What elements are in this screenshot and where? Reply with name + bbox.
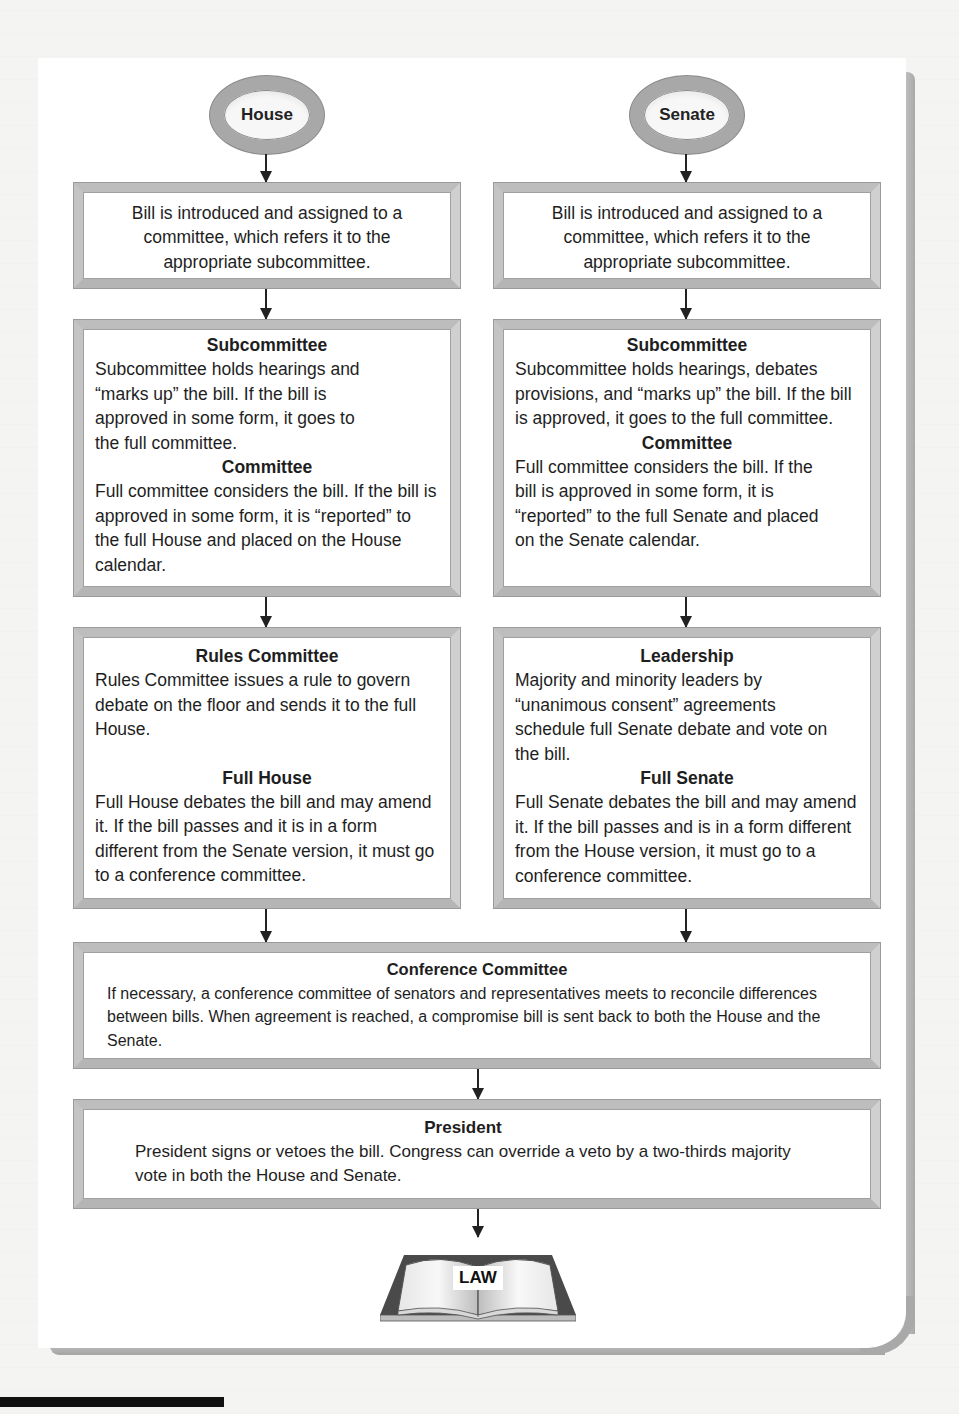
senate-origin-oval: Senate: [630, 76, 744, 154]
house-rules-full-house-box: Rules Committee Rules Committee issues a…: [74, 628, 460, 908]
arrow-down-icon: [265, 154, 267, 182]
leadership-text: Majority and minority leaders by “unanim…: [515, 668, 859, 766]
arrow-down-icon: [265, 597, 267, 627]
leadership-title: Leadership: [515, 644, 859, 668]
arrow-down-icon: [685, 597, 687, 627]
panel-shadow: [906, 72, 915, 1334]
black-rule-divider: [0, 1397, 224, 1407]
arrow-down-icon: [685, 909, 687, 942]
house-origin-label: House: [241, 105, 293, 125]
president-title: President: [135, 1116, 791, 1140]
house-intro-line: appropriate subcommittee.: [83, 250, 451, 274]
senate-committee-title: Committee: [515, 431, 859, 455]
president-text: President signs or vetoes the bill. Cong…: [135, 1140, 791, 1188]
conference-committee-box: Conference Committee If necessary, a con…: [74, 943, 880, 1068]
full-house-title: Full House: [95, 766, 439, 790]
house-origin-oval: House: [210, 76, 324, 154]
arrow-down-icon: [477, 1209, 479, 1237]
house-subcommittee-title: Subcommittee: [95, 333, 439, 357]
senate-intro-line: appropriate subcommittee.: [503, 250, 871, 274]
house-subcommittee-text: Subcommittee holds hearings and “marks u…: [95, 357, 439, 455]
house-intro-line: Bill is introduced and assigned to a: [83, 201, 451, 225]
house-introduction-box: Bill is introduced and assigned to a com…: [74, 183, 460, 288]
arrow-down-icon: [477, 1069, 479, 1099]
senate-leadership-full-senate-box: Leadership Majority and minority leaders…: [494, 628, 880, 908]
conference-committee-title: Conference Committee: [107, 958, 847, 982]
full-house-text: Full House debates the bill and may amen…: [95, 790, 439, 888]
law-label: LAW: [453, 1266, 503, 1290]
senate-subcommittee-committee-box: Subcommittee Subcommittee holds hearings…: [494, 320, 880, 596]
senate-committee-text: Full committee considers the bill. If th…: [515, 455, 859, 553]
senate-subcommittee-title: Subcommittee: [515, 333, 859, 357]
house-intro-line: committee, which refers it to the: [83, 225, 451, 249]
arrow-down-icon: [265, 909, 267, 942]
senate-introduction-box: Bill is introduced and assigned to a com…: [494, 183, 880, 288]
rules-committee-title: Rules Committee: [95, 644, 439, 668]
senate-intro-line: Bill is introduced and assigned to a: [503, 201, 871, 225]
open-book-icon: [380, 1253, 576, 1333]
house-committee-text: Full committee considers the bill. If th…: [95, 479, 439, 577]
rules-committee-text: Rules Committee issues a rule to govern …: [95, 668, 439, 741]
president-box: President President signs or vetoes the …: [74, 1100, 880, 1208]
full-senate-text: Full Senate debates the bill and may ame…: [515, 790, 859, 888]
conference-committee-text: If necessary, a conference committee of …: [107, 982, 847, 1053]
house-committee-title: Committee: [95, 455, 439, 479]
full-senate-title: Full Senate: [515, 766, 859, 790]
senate-origin-label: Senate: [659, 105, 715, 125]
arrow-down-icon: [685, 289, 687, 319]
arrow-down-icon: [685, 154, 687, 182]
senate-intro-line: committee, which refers it to the: [503, 225, 871, 249]
house-subcommittee-committee-box: Subcommittee Subcommittee holds hearings…: [74, 320, 460, 596]
senate-subcommittee-text: Subcommittee holds hearings, debates pro…: [515, 357, 859, 430]
arrow-down-icon: [265, 289, 267, 319]
